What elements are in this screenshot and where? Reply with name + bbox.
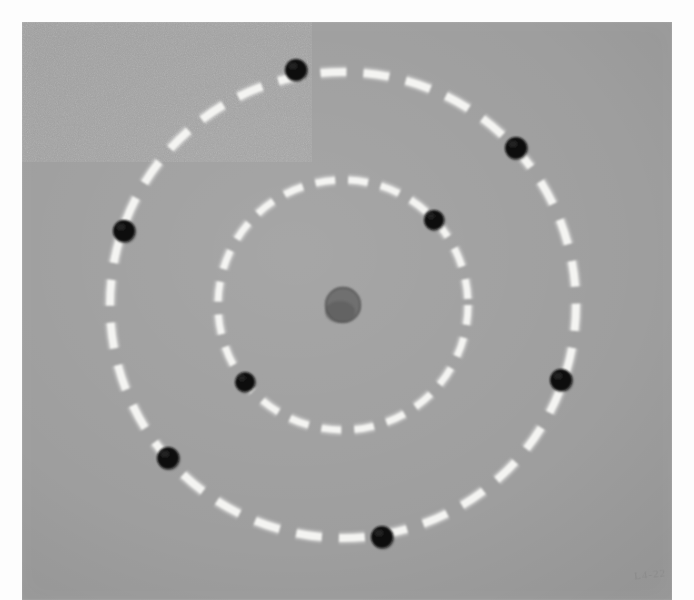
figure-root: L4-22 xyxy=(0,0,694,600)
photographic-print: L4-22 xyxy=(22,22,672,600)
print-annotation: L4-22 xyxy=(634,566,667,581)
print-edge xyxy=(22,22,672,600)
film-grain-texture xyxy=(22,22,312,162)
print-vignette xyxy=(22,22,672,600)
